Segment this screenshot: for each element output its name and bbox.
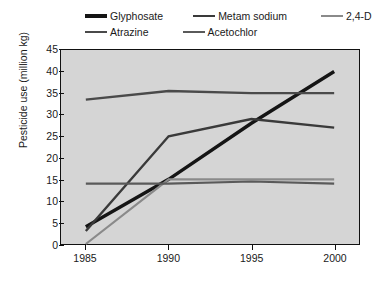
- y-tick-label: 5: [36, 217, 58, 229]
- y-tick-label: 15: [36, 174, 58, 186]
- legend-item-metam-sodium[interactable]: Metam sodium: [193, 11, 287, 22]
- y-tick-mark: [59, 245, 64, 246]
- legend-swatch: [85, 14, 107, 17]
- plot-area: [60, 49, 360, 245]
- series-line-acetochlor: [86, 181, 334, 183]
- x-tick-mark: [252, 245, 253, 250]
- x-tick-mark: [168, 245, 169, 250]
- x-tick-label: 1985: [65, 252, 105, 264]
- y-tick-mark: [59, 114, 64, 115]
- y-tick-mark: [59, 158, 64, 159]
- x-tick-mark: [335, 245, 336, 250]
- y-tick-label: 30: [36, 108, 58, 120]
- legend-swatch: [321, 15, 343, 18]
- y-tick-label: 10: [36, 195, 58, 207]
- legend-item-acetochlor[interactable]: Acetochlor: [183, 27, 258, 38]
- y-axis-ticks: 051015202530354045: [30, 49, 58, 245]
- y-tick-mark: [59, 49, 64, 50]
- legend-item-glyphosate[interactable]: Glyphosate: [85, 11, 163, 22]
- legend-swatch: [183, 31, 205, 34]
- legend-item-atrazine[interactable]: Atrazine: [85, 27, 149, 38]
- y-tick-mark: [59, 223, 64, 224]
- y-tick-mark: [59, 180, 64, 181]
- y-tick-mark: [59, 201, 64, 202]
- y-tick-label: 35: [36, 87, 58, 99]
- y-tick-mark: [59, 136, 64, 137]
- legend-swatch: [85, 31, 107, 34]
- legend-swatch: [193, 15, 215, 18]
- legend-item-2-4-d[interactable]: 2,4-D: [321, 11, 372, 22]
- y-tick-label: 25: [36, 130, 58, 142]
- y-tick-label: 40: [36, 65, 58, 77]
- legend-label: Glyphosate: [110, 11, 163, 22]
- x-tick-mark: [85, 245, 86, 250]
- y-axis-label: Pesticide use (million kg): [17, 5, 29, 175]
- y-tick-mark: [59, 93, 64, 94]
- legend-label: Atrazine: [110, 27, 149, 38]
- chart-legend: GlyphosateMetam sodium2,4-DAtrazineAceto…: [85, 8, 375, 40]
- y-tick-mark: [59, 71, 64, 72]
- legend-label: 2,4-D: [346, 11, 372, 22]
- x-tick-label: 1995: [232, 252, 272, 264]
- pesticide-use-line-chart: GlyphosateMetam sodium2,4-DAtrazineAceto…: [0, 0, 375, 288]
- legend-label: Metam sodium: [218, 11, 287, 22]
- x-tick-label: 2000: [315, 252, 355, 264]
- y-tick-label: 20: [36, 152, 58, 164]
- x-tick-label: 1990: [148, 252, 188, 264]
- legend-row: GlyphosateMetam sodium2,4-D: [85, 8, 375, 24]
- series-lines: [61, 50, 359, 244]
- legend-row: AtrazineAcetochlor: [85, 24, 375, 40]
- y-tick-label: 45: [36, 43, 58, 55]
- legend-label: Acetochlor: [208, 27, 258, 38]
- y-tick-label: 0: [36, 239, 58, 251]
